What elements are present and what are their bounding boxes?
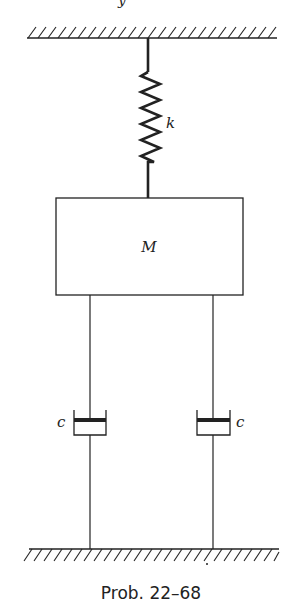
bottom-ground xyxy=(24,549,279,565)
dashpot-left-label: c xyxy=(57,413,66,431)
dashpot-right-label: c xyxy=(236,413,245,431)
spring-label: k xyxy=(166,114,175,132)
top-ground xyxy=(27,27,277,38)
spring xyxy=(141,38,160,198)
mass-spring-damper-diagram: y k M c xyxy=(0,0,291,615)
dashpot-left xyxy=(74,295,106,549)
mass-label: M xyxy=(140,238,157,256)
figure-caption: Prob. 22–68 xyxy=(101,583,201,603)
top-text-fragment: y xyxy=(117,0,127,8)
dashpot-right xyxy=(197,295,230,549)
